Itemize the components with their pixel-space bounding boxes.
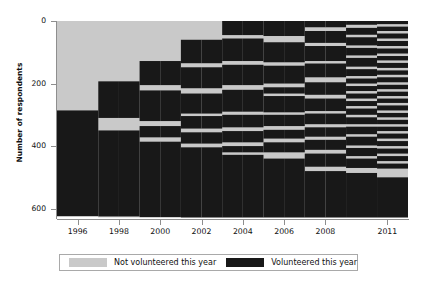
x-tick-label: 2000 (140, 227, 180, 236)
x-tick-mark (202, 220, 203, 225)
x-tick-label: 2002 (182, 227, 222, 236)
legend-label-volunteered: Volunteered this year (271, 258, 357, 267)
heatmap-raster (57, 21, 408, 218)
y-tick-label: 400 (6, 141, 46, 150)
y-tick-mark (51, 209, 56, 210)
x-tick-label: 1998 (99, 227, 139, 236)
x-tick-label: 2006 (264, 227, 304, 236)
y-tick-label: 600 (6, 204, 46, 213)
figure: Number of respondents 0200400600 1996199… (0, 0, 422, 283)
x-tick-mark (78, 220, 79, 225)
x-tick-mark (387, 220, 388, 225)
x-tick-mark (325, 220, 326, 225)
x-tick-mark (284, 220, 285, 225)
legend: Not volunteered this year Volunteered th… (59, 254, 358, 271)
x-tick-mark (119, 220, 120, 225)
x-tick-mark (243, 220, 244, 225)
y-tick-mark (51, 21, 56, 22)
legend-label-not-volunteered: Not volunteered this year (114, 258, 216, 267)
y-tick-label: 0 (6, 16, 46, 25)
legend-entry-volunteered: Volunteered this year (217, 255, 357, 270)
legend-entry-not-volunteered: Not volunteered this year (60, 255, 216, 270)
x-tick-label: 2011 (367, 227, 407, 236)
x-axis-line (57, 219, 409, 220)
x-tick-label: 2004 (223, 227, 263, 236)
x-tick-label: 2008 (305, 227, 345, 236)
y-axis-label: Number of respondents (15, 43, 24, 183)
y-tick-label: 200 (6, 79, 46, 88)
heatmap-plot-area (57, 21, 408, 218)
x-tick-mark (160, 220, 161, 225)
y-tick-mark (51, 84, 56, 85)
legend-swatch-not-volunteered (69, 258, 107, 267)
legend-swatch-volunteered (226, 258, 264, 267)
y-tick-mark (51, 146, 56, 147)
x-tick-label: 1996 (58, 227, 98, 236)
